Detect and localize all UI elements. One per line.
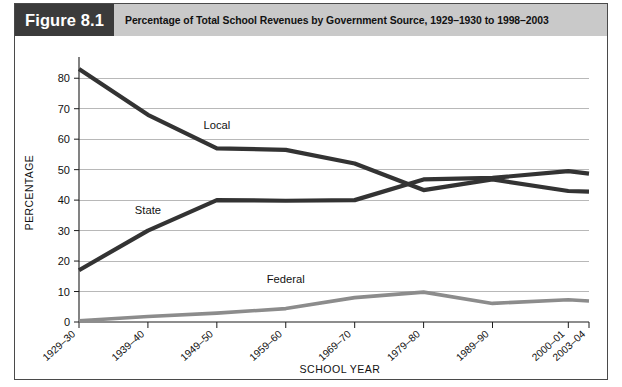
y-axis-title: PERCENTAGE	[24, 155, 35, 230]
ytick-label-50: 50	[58, 164, 70, 176]
series-line-state	[79, 171, 589, 270]
xtick-label-4: 1969–70	[316, 328, 353, 363]
figure-title: Percentage of Total School Revenues by G…	[125, 4, 601, 36]
xtick-label-0: 1929–30	[40, 328, 77, 363]
series-label-federal: Federal	[267, 273, 305, 285]
figure-number-badge: Figure 8.1	[15, 4, 114, 36]
series-label-state: State	[135, 204, 161, 216]
series-label-local: Local	[203, 119, 230, 131]
ytick-label-80: 80	[58, 72, 70, 84]
line-chart: 010203040506070801929–301939–401949–5019…	[15, 36, 607, 379]
ytick-label-0: 0	[64, 316, 70, 328]
figure-root: Figure 8.1 Percentage of Total School Re…	[0, 0, 622, 387]
chart-plot-area: 010203040506070801929–301939–401949–5019…	[15, 36, 607, 379]
ytick-label-20: 20	[58, 255, 70, 267]
ytick-label-10: 10	[58, 286, 70, 298]
figure-header: Figure 8.1 Percentage of Total School Re…	[15, 4, 607, 36]
figure-frame: Figure 8.1 Percentage of Total School Re…	[14, 3, 608, 380]
xtick-label-5: 1979–80	[385, 328, 422, 363]
x-axis-title: SCHOOL YEAR	[300, 363, 381, 375]
series-line-local	[79, 69, 589, 192]
ytick-label-60: 60	[58, 133, 70, 145]
ytick-label-30: 30	[58, 225, 70, 237]
ytick-label-70: 70	[58, 103, 70, 115]
xtick-label-1: 1939–40	[109, 328, 146, 363]
xtick-label-3: 1959–60	[247, 328, 284, 363]
xtick-label-2: 1949–50	[178, 328, 215, 363]
series-line-federal	[79, 292, 589, 321]
ytick-label-40: 40	[58, 194, 70, 206]
xtick-label-6: 1989–90	[454, 328, 491, 363]
